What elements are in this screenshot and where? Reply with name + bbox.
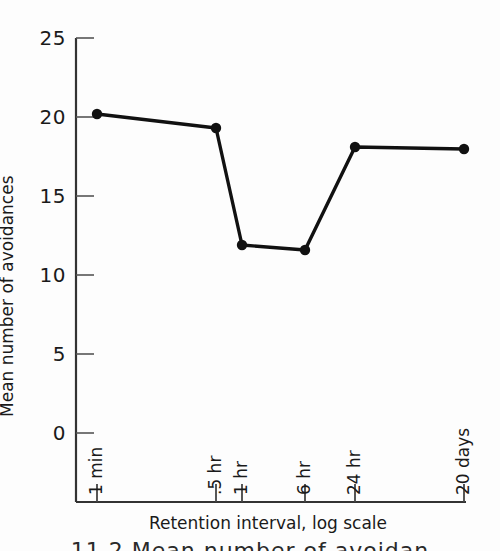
- x-tick-label-1-min: 1 min: [88, 447, 105, 495]
- data-point: [237, 240, 247, 250]
- x-tick-label-6-hr: 6 hr: [296, 461, 313, 495]
- x-tick-label-20-days: 20 days: [455, 428, 472, 495]
- data-point: [92, 109, 102, 119]
- data-point: [211, 123, 221, 133]
- x-tick-label-24-hr: 24 hr: [346, 450, 363, 495]
- y-tick-label-10: 10: [22, 265, 66, 285]
- data-point-markers: [92, 109, 469, 255]
- y-tick-label-25: 25: [22, 28, 66, 48]
- x-tick-marks: [97, 484, 464, 502]
- y-tick-label-0: 0: [22, 423, 66, 443]
- y-tick-label-5: 5: [22, 344, 66, 364]
- y-tick-marks: [76, 38, 94, 433]
- figure-caption-partial: 11.2 Mean number of avoidan: [0, 538, 500, 551]
- figure-container: 25 20 15 10 5 0 Mean number of avoidance…: [0, 0, 500, 551]
- data-line-series-1: [97, 114, 464, 250]
- data-point: [459, 144, 469, 154]
- x-axis-title: Retention interval, log scale: [0, 515, 500, 532]
- x-tick-label-1-hr: 1 hr: [233, 461, 250, 495]
- y-tick-label-20: 20: [22, 107, 66, 127]
- y-tick-label-15: 15: [22, 186, 66, 206]
- y-axis-title: Mean number of avoidances: [0, 175, 16, 417]
- data-point: [350, 142, 360, 152]
- x-tick-label-point5-hr: .5 hr: [207, 456, 224, 495]
- data-point: [300, 245, 310, 255]
